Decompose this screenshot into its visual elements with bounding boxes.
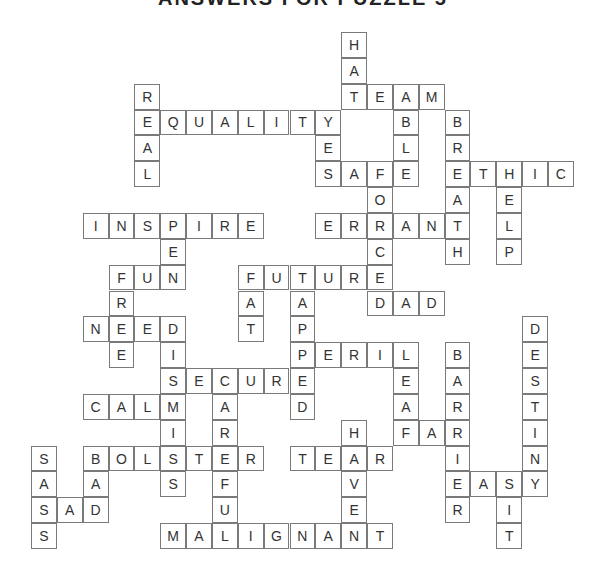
grid-cell: S (31, 446, 57, 472)
grid-cell: O (109, 446, 135, 472)
grid-cell: E (315, 213, 341, 239)
grid-cell: R (341, 265, 367, 291)
grid-cell: U (186, 110, 212, 136)
grid-cell: Q (160, 110, 186, 136)
grid-cell: I (445, 446, 471, 472)
grid-cell: H (445, 239, 471, 265)
grid-cell: P (290, 342, 316, 368)
grid-cell: N (160, 265, 186, 291)
grid-cell: A (290, 291, 316, 317)
grid-cell: P (160, 213, 186, 239)
grid-cell: E (160, 239, 186, 265)
grid-cell: L (238, 110, 264, 136)
grid-cell: S (522, 368, 548, 394)
grid-cell: I (264, 110, 290, 136)
grid-cell: B (83, 446, 109, 472)
grid-cell: E (445, 161, 471, 187)
grid-cell: N (290, 523, 316, 549)
grid-cell: A (445, 187, 471, 213)
grid-cell: E (522, 342, 548, 368)
grid-cell: E (367, 84, 393, 110)
grid-cell: S (160, 368, 186, 394)
grid-cell: E (393, 368, 419, 394)
grid-cell: A (470, 471, 496, 497)
grid-cell: A (134, 135, 160, 161)
grid-cell: I (160, 420, 186, 446)
grid-cell: T (341, 84, 367, 110)
grid-cell: U (238, 368, 264, 394)
grid-cell: E (238, 213, 264, 239)
grid-cell: R (341, 213, 367, 239)
grid-cell: T (470, 161, 496, 187)
grid-cell: S (160, 446, 186, 472)
grid-cell: E (212, 446, 238, 472)
grid-cell: N (522, 446, 548, 472)
grid-cell: N (109, 213, 135, 239)
grid-cell: L (134, 161, 160, 187)
grid-cell: F (212, 471, 238, 497)
grid-cell: A (393, 291, 419, 317)
grid-cell: B (445, 342, 471, 368)
grid-cell: C (212, 368, 238, 394)
grid-cell: H (341, 420, 367, 446)
grid-cell: T (522, 394, 548, 420)
grid-cell: L (496, 213, 522, 239)
grid-cell: R (367, 213, 393, 239)
grid-cell: A (393, 84, 419, 110)
grid-cell: R (445, 135, 471, 161)
grid-cell: I (522, 420, 548, 446)
grid-cell: E (445, 471, 471, 497)
grid-cell: C (367, 239, 393, 265)
grid-cell: E (186, 368, 212, 394)
grid-cell: Y (315, 110, 341, 136)
grid-cell: R (264, 368, 290, 394)
grid-cell: L (134, 394, 160, 420)
grid-cell: E (367, 265, 393, 291)
grid-cell: O (367, 187, 393, 213)
grid-cell: T (290, 446, 316, 472)
grid-cell: S (315, 161, 341, 187)
grid-cell: R (367, 446, 393, 472)
grid-cell: B (393, 110, 419, 136)
grid-cell: A (341, 161, 367, 187)
grid-cell: R (238, 446, 264, 472)
grid-cell: M (160, 523, 186, 549)
grid-cell: S (31, 523, 57, 549)
grid-cell: D (290, 394, 316, 420)
grid-cell: F (109, 265, 135, 291)
grid-cell: A (212, 110, 238, 136)
grid-cell: E (393, 161, 419, 187)
grid-cell: L (393, 135, 419, 161)
grid-cell: V (341, 471, 367, 497)
grid-cell: D (522, 316, 548, 342)
grid-cell: U (134, 265, 160, 291)
grid-cell: R (134, 84, 160, 110)
grid-cell: A (445, 368, 471, 394)
grid-cell: T (290, 110, 316, 136)
grid-cell: A (186, 523, 212, 549)
grid-cell: R (212, 213, 238, 239)
grid-cell: I (186, 213, 212, 239)
grid-cell: D (419, 291, 445, 317)
grid-cell: P (290, 316, 316, 342)
grid-cell: C (83, 394, 109, 420)
grid-cell: T (496, 523, 522, 549)
page-title: ANSWERS FOR PUZZLE 5 (0, 0, 606, 10)
grid-cell: P (496, 239, 522, 265)
grid-cell: M (160, 394, 186, 420)
grid-cell: E (315, 342, 341, 368)
grid-cell: A (419, 420, 445, 446)
grid-cell: E (341, 497, 367, 523)
grid-cell: I (238, 523, 264, 549)
grid-cell: U (315, 265, 341, 291)
grid-cell: E (134, 110, 160, 136)
grid-cell: A (109, 394, 135, 420)
grid-cell: L (212, 523, 238, 549)
grid-cell: I (367, 342, 393, 368)
grid-cell: Y (522, 471, 548, 497)
grid-cell: T (238, 316, 264, 342)
grid-cell: F (393, 420, 419, 446)
grid-cell: A (393, 394, 419, 420)
grid-cell: R (445, 420, 471, 446)
grid-cell: A (315, 523, 341, 549)
